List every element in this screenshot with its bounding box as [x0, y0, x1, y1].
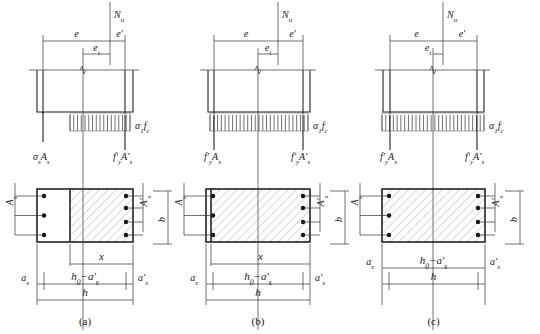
compression-zone	[211, 189, 310, 242]
dim-as-label: as	[190, 272, 198, 287]
dim-h-label: h	[82, 286, 88, 298]
dim-e-prime-label: e′	[116, 28, 123, 39]
alpha-fc-label: α1fc	[135, 120, 151, 135]
As-label: As	[4, 196, 19, 206]
As-prime-label: A′s	[138, 195, 153, 207]
As-prime-label: A′s	[315, 195, 330, 207]
dim-ei-label: ei	[265, 42, 271, 57]
As-label: As	[173, 196, 188, 206]
dim-ei-label: ei	[425, 42, 431, 57]
alpha-fc-label: α1fc	[489, 120, 505, 135]
dim-as-label: as	[21, 272, 29, 287]
left-steel-force-label: f′yAs	[204, 151, 221, 166]
right-steel-force-label: f′yA′s	[113, 151, 132, 166]
member-outline	[383, 70, 484, 112]
axial-force-label: Nu	[113, 9, 125, 24]
caption-a: (a)	[79, 315, 92, 328]
dim-as-prime-label: a′s	[315, 272, 325, 287]
dim-as-prime-label: a′s	[138, 272, 148, 287]
axial-force-label: Nu	[281, 9, 293, 24]
member-outline	[37, 70, 133, 112]
dim-x-label: x	[257, 250, 263, 262]
dim-h-label: h	[255, 286, 261, 298]
b-label: b	[156, 217, 167, 222]
member-outline	[208, 70, 310, 112]
compression-zone	[70, 189, 133, 242]
b-label: b	[333, 217, 344, 222]
dim-x-label: x	[98, 250, 104, 262]
b-label: b	[508, 217, 519, 222]
panel-a: Nuee′eiα1fcσsAsf′yA′sAsA′sbxh0−a′sasa′sh…	[4, 2, 172, 330]
right-steel-force-label: f′yA′s	[465, 151, 484, 166]
dim-e-label: e	[244, 28, 249, 39]
left-steel-force-label: σsAs	[33, 151, 50, 166]
As-prime-label: A′s	[490, 195, 505, 207]
dim-as-prime-label: a′s	[490, 256, 500, 271]
As-label: As	[349, 196, 364, 206]
dim-h-label: h	[431, 270, 437, 282]
panel-b: Nuee′eiα1fcf′yAsf′yA′sAsA′sbxh0−a′sasa′s…	[173, 2, 349, 330]
alpha-fc-label: α1fc	[313, 120, 329, 135]
right-steel-force-label: f′yA′s	[291, 151, 310, 166]
figure-canvas: Nuee′eiα1fcσsAsf′yA′sAsA′sbxh0−a′sasa′sh…	[0, 0, 540, 334]
caption-b: (b)	[252, 315, 265, 328]
dim-e-label: e	[74, 28, 79, 39]
dim-as-label: as	[366, 256, 374, 271]
left-steel-force-label: f′yAs	[380, 151, 397, 166]
axial-force-label: Nu	[446, 9, 458, 24]
caption-c: (c)	[427, 315, 440, 328]
compression-zone	[382, 189, 485, 242]
dim-e-label: e	[414, 28, 419, 39]
dim-ei-label: ei	[93, 42, 99, 57]
dim-e-prime-label: e′	[289, 28, 296, 39]
dim-e-prime-label: e′	[459, 28, 466, 39]
eccentric-compression-diagram: Nuee′eiα1fcσsAsf′yA′sAsA′sbxh0−a′sasa′sh…	[0, 0, 540, 334]
panel-c: Nuee′eiα1fcf′yAsf′yA′sAsA′sbh0−a′sasa′sh…	[349, 2, 524, 330]
